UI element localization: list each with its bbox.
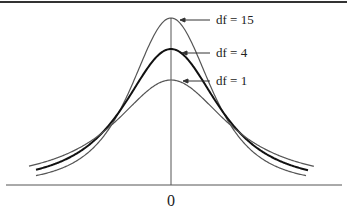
label-df4: df = 4: [216, 45, 248, 60]
t-distribution-chart: df = 15 df = 4 df = 1 0: [0, 0, 347, 216]
x-tick-zero: 0: [167, 192, 175, 209]
label-df1: df = 1: [216, 73, 247, 88]
label-df15: df = 15: [216, 12, 254, 27]
curve-df-4: [36, 49, 308, 170]
